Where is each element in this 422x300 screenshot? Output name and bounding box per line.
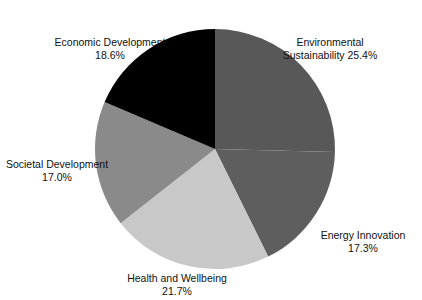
pie-label-environmental-sustainability: Environmental Sustainability 25.4%: [283, 36, 378, 62]
pie-label-name: Energy Innovation: [321, 229, 406, 242]
pie-label-value: 17.0%: [6, 171, 108, 184]
pie-label-name: Environmental: [283, 36, 378, 49]
pie-label-value: 18.6%: [55, 49, 166, 62]
pie-label-economic-development: Economic Development 18.6%: [55, 36, 166, 62]
pie-label-health-and-wellbeing: Health and Wellbeing 21.7%: [127, 272, 227, 298]
pie-label-energy-innovation: Energy Innovation 17.3%: [321, 229, 406, 255]
pie-slice-group: [95, 29, 335, 269]
pie-label-value: 21.7%: [127, 285, 227, 298]
chart-canvas: Environmental Sustainability 25.4% Energ…: [0, 0, 422, 300]
pie-label-name: Societal Development: [6, 158, 108, 171]
pie-label-value: Sustainability 25.4%: [283, 49, 378, 62]
pie-label-name: Health and Wellbeing: [127, 272, 227, 285]
pie-label-name: Economic Development: [55, 36, 166, 49]
pie-label-value: 17.3%: [321, 242, 406, 255]
pie-label-societal-development: Societal Development 17.0%: [6, 158, 108, 184]
